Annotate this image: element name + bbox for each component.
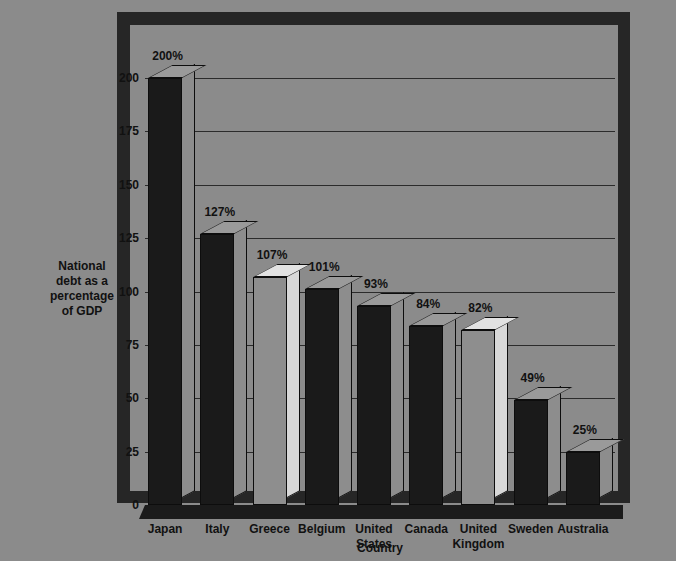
bar-canada[interactable]: 84% [409,313,443,505]
bar-side-face [548,386,561,498]
y-axis-tick-0: 0 [99,498,139,512]
x-axis-tick-line-0: United [452,522,504,537]
gridline-200 [145,78,615,79]
y-axis-tick-150: 150 [99,178,139,192]
bar-front-face [409,326,443,505]
x-axis-title: Country [320,541,440,555]
bar-value-label: 101% [309,260,340,274]
bar-value-label: 107% [257,248,288,262]
x-axis-tick-line-0: Greece [243,522,295,537]
bar-japan[interactable]: 200% [148,65,182,505]
y-axis-tick-175: 175 [99,124,139,138]
y-axis-tick-200: 200 [99,71,139,85]
bar-side-face [234,220,247,498]
bar-top-face [357,293,415,306]
y-axis-title-line-3: of GDP [36,304,128,319]
x-axis-tick-sweden: Sweden [505,522,557,537]
bar-united-kingdom[interactable]: 82% [461,317,495,505]
x-axis-tick-greece: Greece [243,522,295,537]
bar-value-label: 127% [204,205,235,219]
bar-value-label: 84% [416,297,440,311]
y-axis-tick-75: 75 [99,338,139,352]
x-axis-tick-canada: Canada [400,522,452,537]
gridline-175 [145,131,615,132]
bar-front-face [461,330,495,505]
bar-australia[interactable]: 25% [566,439,600,505]
bar-italy[interactable]: 127% [200,221,234,505]
bar-value-label: 93% [364,277,388,291]
bar-top-face [305,276,363,289]
x-axis-tick-line-1: Kingdom [452,537,504,552]
bar-front-face [200,234,234,505]
bar-value-label: 82% [468,301,492,315]
bar-front-face [253,277,287,505]
bar-value-label: 25% [573,423,597,437]
bar-front-face [148,78,182,505]
x-axis-tick-line-0: Australia [557,522,609,537]
bar-front-face [566,452,600,505]
bar-top-face [461,317,519,330]
y-axis-tick-50: 50 [99,391,139,405]
x-axis-tick-line-0: Sweden [505,522,557,537]
x-axis-tick-line-0: Japan [139,522,191,537]
bar-side-face [495,316,508,498]
bar-front-face [514,400,548,505]
x-axis-tick-italy: Italy [191,522,243,537]
x-axis-tick-australia: Australia [557,522,609,537]
bar-top-face [200,221,258,234]
y-axis-tick-125: 125 [99,231,139,245]
axis-floor-band [145,505,623,519]
bar-side-face [443,312,456,498]
bar-belgium[interactable]: 101% [305,276,339,505]
plot-area: 200%127%107%101%93%84%82%49%25% [145,78,615,505]
y-axis-title-line-2: percentage [36,289,128,304]
x-axis-tick-japan: Japan [139,522,191,537]
bar-side-face [182,64,195,498]
bar-value-label: 200% [152,49,183,63]
x-axis-tick-line-0: Italy [191,522,243,537]
y-axis-tick-25: 25 [99,445,139,459]
bar-side-face [391,293,404,498]
x-axis-tick-line-0: Canada [400,522,452,537]
bar-value-label: 49% [521,371,545,385]
bar-top-face [409,313,467,326]
bar-side-face [287,263,300,498]
bar-front-face [357,306,391,505]
bar-greece[interactable]: 107% [253,264,287,505]
gridline-150 [145,185,615,186]
bar-front-face [305,289,339,505]
x-axis-tick-belgium: Belgium [296,522,348,537]
x-axis-tick-united-kingdom: UnitedKingdom [452,522,504,552]
bar-top-face [253,264,311,277]
bar-side-face [339,275,352,498]
bar-united-states[interactable]: 93% [357,293,391,505]
y-axis-title-line-0: National [36,259,128,274]
x-axis-tick-line-0: Belgium [296,522,348,537]
y-axis-title: Nationaldebt as apercentageof GDP [36,259,128,319]
y-axis-title-line-1: debt as a [36,274,128,289]
x-axis-tick-line-0: United [348,522,400,537]
bar-sweden[interactable]: 49% [514,387,548,505]
